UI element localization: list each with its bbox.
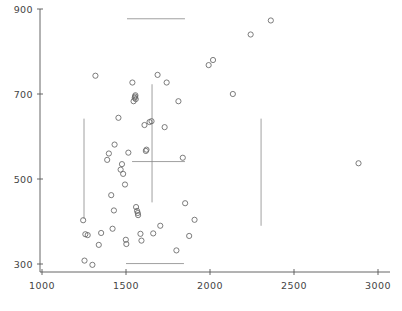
data-point-marker: [230, 91, 235, 96]
data-point-marker: [138, 231, 143, 236]
data-point-marker: [111, 208, 116, 213]
data-point-marker: [206, 63, 211, 68]
data-point-marker: [176, 99, 181, 104]
data-point-marker: [158, 223, 163, 228]
x-axis-tick-label: 1500: [113, 280, 139, 291]
y-axis-tick-label: 500: [14, 174, 33, 185]
x-axis-tick-label: 3000: [365, 280, 391, 291]
data-points-group: [81, 18, 362, 268]
y-axis-tick-label: 300: [14, 259, 33, 270]
data-point-marker: [183, 201, 188, 206]
data-point-marker: [187, 233, 192, 238]
x-axis-tick-label: 2500: [281, 280, 307, 291]
y-axis-tick-label: 700: [14, 89, 33, 100]
data-point-marker: [155, 72, 160, 77]
scatter-plot-figure: 30050070090010001500200025003000: [0, 0, 402, 311]
x-axis-tick-label: 2000: [197, 280, 223, 291]
data-point-marker: [180, 155, 185, 160]
data-point-marker: [192, 217, 197, 222]
scatter-plot-canvas: 30050070090010001500200025003000: [0, 0, 402, 311]
data-point-marker: [105, 157, 110, 162]
data-point-marker: [112, 142, 117, 147]
data-point-marker: [116, 115, 121, 120]
data-point-marker: [96, 242, 101, 247]
data-point-marker: [122, 182, 127, 187]
data-point-marker: [268, 18, 273, 23]
x-axis-tick-label: 1000: [29, 280, 55, 291]
data-point-marker: [81, 218, 86, 223]
axis-tick-labels-group: 30050070090010001500200025003000: [14, 4, 391, 292]
data-point-marker: [106, 151, 111, 156]
data-point-marker: [110, 226, 115, 231]
data-point-marker: [174, 248, 179, 253]
data-point-marker: [248, 32, 253, 37]
axes-group: [40, 9, 390, 272]
data-point-marker: [90, 262, 95, 267]
data-point-marker: [126, 150, 131, 155]
data-point-marker: [142, 122, 147, 127]
data-point-marker: [139, 238, 144, 243]
data-point-marker: [210, 57, 215, 62]
data-point-marker: [162, 125, 167, 130]
data-point-marker: [130, 80, 135, 85]
data-point-marker: [99, 230, 104, 235]
data-point-marker: [356, 161, 361, 166]
data-point-marker: [93, 73, 98, 78]
data-point-marker: [121, 171, 126, 176]
y-axis-tick-label: 900: [14, 4, 33, 15]
data-point-marker: [82, 258, 87, 263]
data-point-marker: [164, 80, 169, 85]
data-point-marker: [151, 231, 156, 236]
data-point-marker: [119, 162, 124, 167]
data-point-marker: [109, 193, 114, 198]
